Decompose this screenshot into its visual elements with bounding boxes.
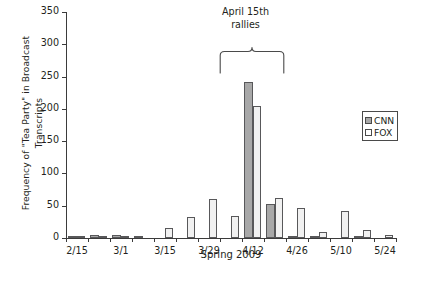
legend-swatch-cnn-icon	[365, 117, 372, 124]
bar-cnn-2-22[interactable]	[90, 235, 99, 238]
y-tick: 150	[62, 141, 66, 142]
bar-fox-4-19[interactable]	[275, 198, 284, 238]
chart-figure: Frequency of "Tea Party" in Broadcast Tr…	[0, 0, 424, 287]
bar-cnn-5-17[interactable]	[354, 236, 363, 238]
y-tick: 250	[62, 77, 66, 78]
x-tick	[176, 238, 177, 242]
legend-item-cnn[interactable]: CNN	[365, 114, 394, 126]
x-tick	[352, 238, 353, 242]
y-tick: 200	[62, 109, 66, 110]
y-tick-label: 250	[41, 70, 59, 81]
y-tick-label: 150	[41, 134, 59, 145]
x-tick	[110, 238, 111, 242]
x-axis-title: Spring 2009	[66, 249, 396, 260]
y-axis-line	[66, 12, 67, 238]
legend-swatch-fox-icon	[365, 129, 372, 136]
bar-fox-3-15[interactable]	[165, 228, 174, 238]
y-tick: 300	[62, 44, 66, 45]
bar-cnn-3-1[interactable]	[112, 235, 121, 238]
bar-cnn-5-3[interactable]	[310, 236, 319, 238]
bar-fox-4-5[interactable]	[231, 216, 240, 238]
y-tick-label: 350	[41, 5, 59, 16]
annotation-line-1: April 15th	[188, 6, 303, 19]
bar-fox-5-24[interactable]	[385, 235, 394, 238]
x-tick	[88, 238, 89, 242]
x-tick	[66, 238, 67, 242]
x-tick	[132, 238, 133, 242]
bar-fox-5-3[interactable]	[319, 232, 328, 238]
legend-label-fox: FOX	[374, 127, 392, 138]
bar-cnn-3-8[interactable]	[134, 236, 143, 238]
y-tick-label: 50	[47, 199, 59, 210]
y-tick-label: 100	[41, 166, 59, 177]
bar-fox-5-17[interactable]	[363, 230, 372, 238]
bar-fox-3-1[interactable]	[121, 236, 130, 238]
x-tick	[264, 238, 265, 242]
y-tick: 50	[62, 206, 66, 207]
y-tick-label: 300	[41, 37, 59, 48]
y-tick-label: 0	[53, 231, 59, 242]
legend-item-fox[interactable]: FOX	[365, 126, 394, 138]
annotation-line-2: rallies	[188, 19, 303, 32]
x-tick	[374, 238, 375, 242]
bar-cnn-4-26[interactable]	[288, 236, 297, 238]
legend: CNN FOX	[362, 111, 398, 141]
bar-fox-5-10[interactable]	[341, 211, 350, 238]
x-tick	[308, 238, 309, 242]
curly-brace-icon	[219, 46, 285, 74]
bar-fox-3-22[interactable]	[187, 217, 196, 238]
x-tick	[154, 238, 155, 242]
legend-label-cnn: CNN	[374, 115, 394, 126]
bar-fox-4-26[interactable]	[297, 208, 306, 238]
x-tick	[330, 238, 331, 242]
y-tick-label: 200	[41, 102, 59, 113]
x-tick	[396, 238, 397, 242]
bar-cnn-4-12[interactable]	[244, 82, 253, 238]
bar-fox-2-15[interactable]	[77, 236, 86, 238]
bar-fox-3-29[interactable]	[209, 199, 218, 238]
x-axis-line	[66, 238, 396, 239]
y-tick: 100	[62, 173, 66, 174]
x-tick	[242, 238, 243, 242]
bar-cnn-4-19[interactable]	[266, 204, 275, 238]
y-tick: 350	[62, 12, 66, 13]
x-tick	[220, 238, 221, 242]
bar-fox-2-22[interactable]	[99, 236, 108, 238]
bar-fox-4-12[interactable]	[253, 106, 262, 238]
x-tick	[286, 238, 287, 242]
bar-cnn-2-15[interactable]	[68, 236, 77, 238]
x-tick	[198, 238, 199, 242]
annotation-april-15th-rallies: April 15th rallies	[188, 6, 303, 31]
